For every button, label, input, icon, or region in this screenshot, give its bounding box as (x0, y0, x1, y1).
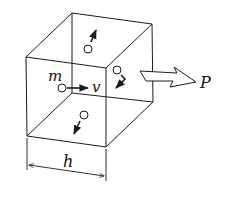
gas-cube-diagram: m v P h (0, 0, 237, 200)
cube-edges (26, 13, 153, 147)
molecule-top (84, 45, 92, 53)
molecule-bottom (80, 111, 88, 119)
molecule-right (113, 66, 121, 74)
molecules (58, 45, 121, 119)
molecule-m (58, 84, 66, 92)
label-P: P (199, 73, 211, 92)
label-h: h (63, 152, 73, 171)
arrow-bottom-icon (74, 121, 80, 134)
label-v: v (92, 78, 101, 96)
label-m: m (48, 67, 62, 85)
arrow-top-icon (91, 30, 96, 42)
cube-front-face (26, 57, 106, 147)
arrow-right-icon (116, 75, 125, 88)
pressure-arrow-icon (140, 67, 196, 87)
